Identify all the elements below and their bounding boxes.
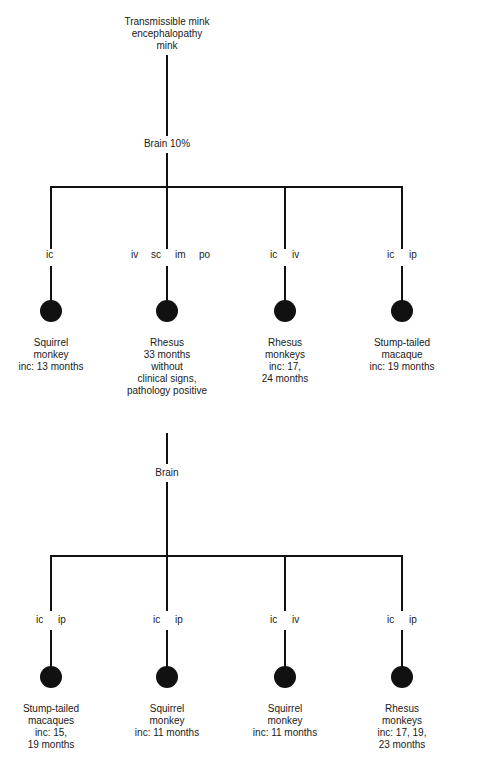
animal-node-icon [274, 300, 296, 322]
label-line: Rhesus [342, 703, 462, 715]
branch-2-2-lower [166, 630, 168, 670]
branch-2-3-lower [284, 630, 286, 670]
animal-label: Stump-tailed macaque inc: 19 months [342, 337, 462, 373]
branch-2-3-upper [284, 555, 286, 611]
route-label: ic [46, 249, 53, 261]
label-line: inc: 19 months [342, 361, 462, 373]
label-line: monkeys [225, 349, 345, 361]
animal-node-icon [391, 666, 413, 688]
connector-brain-to-bar-1 [166, 153, 168, 188]
label-line: inc: 11 months [225, 727, 345, 739]
label-line: 33 months [107, 349, 227, 361]
route-label: iv [292, 614, 299, 626]
label-line: Squirrel [107, 703, 227, 715]
animal-label: Rhesus 33 months without clinical signs,… [107, 337, 227, 397]
route-label: im [175, 249, 186, 261]
animal-label: Stump-tailed macaques inc: 15, 19 months [0, 703, 111, 751]
label-line: clinical signs, [107, 373, 227, 385]
route-label: ic [36, 614, 43, 626]
branch-1-4-lower [401, 266, 403, 304]
route-label: ip [58, 614, 66, 626]
route-label: ip [409, 249, 417, 261]
label-line: Rhesus [107, 337, 227, 349]
branch-1-1-lower [50, 266, 52, 304]
route-label: ic [387, 614, 394, 626]
label-line: inc: 17, 19, [342, 727, 462, 739]
branch-1-2-lower [166, 266, 168, 304]
source-title: Transmissible mink encephalopathy mink [107, 16, 227, 52]
animal-node-icon [274, 666, 296, 688]
route-label: iv [131, 249, 138, 261]
animal-label: Rhesus monkeys inc: 17, 19, 23 months [342, 703, 462, 751]
inoculum-label-2: Brain [137, 467, 197, 479]
branch-1-4-upper [401, 186, 403, 249]
route-label: ip [175, 614, 183, 626]
label-line: Squirrel [0, 337, 111, 349]
label-line: Stump-tailed [342, 337, 462, 349]
label-line: pathology positive [107, 385, 227, 397]
label-line: monkey [0, 349, 111, 361]
animal-label: Rhesus monkeys inc: 17, 24 months [225, 337, 345, 385]
connector-rhesus-to-brain [166, 433, 168, 464]
label-line: Rhesus [225, 337, 345, 349]
label-line: monkey [107, 715, 227, 727]
source-line-2: encephalopathy [107, 28, 227, 40]
animal-node-icon [391, 300, 413, 322]
label-line: 24 months [225, 373, 345, 385]
animal-label: Squirrel monkey inc: 11 months [225, 703, 345, 739]
branch-1-3-lower [284, 266, 286, 304]
source-line-3: mink [107, 40, 227, 52]
branch-1-3-upper [284, 186, 286, 249]
label-line: without [107, 361, 227, 373]
connector-source-to-brain [166, 55, 168, 136]
animal-node-icon [40, 300, 62, 322]
branch-1-2-upper [166, 186, 168, 249]
branch-bar-1 [50, 186, 403, 188]
branch-1-1-upper [50, 186, 52, 249]
animal-node-icon [40, 666, 62, 688]
source-line-1: Transmissible mink [107, 16, 227, 28]
route-label: ic [387, 249, 394, 261]
branch-2-2-upper [166, 555, 168, 611]
route-label: ic [270, 249, 277, 261]
route-label: ic [270, 614, 277, 626]
label-line: macaques [0, 715, 111, 727]
inoculum-label-1: Brain 10% [127, 138, 207, 150]
label-line: 19 months [0, 739, 111, 751]
route-label: sc [151, 249, 161, 261]
label-line: monkey [225, 715, 345, 727]
label-line: macaque [342, 349, 462, 361]
label-line: inc: 17, [225, 361, 345, 373]
label-line: inc: 15, [0, 727, 111, 739]
animal-node-icon [156, 300, 178, 322]
animal-label: Squirrel monkey inc: 11 months [107, 703, 227, 739]
route-label: iv [292, 249, 299, 261]
connector-brain-to-bar-2 [166, 482, 168, 557]
label-line: 23 months [342, 739, 462, 751]
route-label: po [199, 249, 210, 261]
label-line: Squirrel [225, 703, 345, 715]
label-line: Stump-tailed [0, 703, 111, 715]
branch-2-4-upper [401, 555, 403, 611]
route-label: ip [409, 614, 417, 626]
animal-label: Squirrel monkey inc: 13 months [0, 337, 111, 373]
branch-bar-2 [50, 555, 403, 557]
branch-2-1-upper [50, 555, 52, 611]
branch-2-1-lower [50, 630, 52, 670]
label-line: monkeys [342, 715, 462, 727]
label-line: inc: 11 months [107, 727, 227, 739]
label-line: inc: 13 months [0, 361, 111, 373]
animal-node-icon [156, 666, 178, 688]
route-label: ic [153, 614, 160, 626]
branch-2-4-lower [401, 630, 403, 670]
